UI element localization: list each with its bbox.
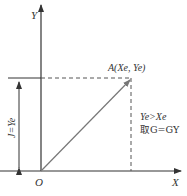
vector-oa bbox=[41, 80, 130, 171]
dimension-label: J=Ye bbox=[6, 117, 17, 138]
point-a-label: A(Xe, Ye) bbox=[107, 62, 146, 74]
condition-line-1: Ye>Xe bbox=[140, 111, 167, 122]
diagram-canvas: Y X O A(Xe, Ye) J=Ye Ye>Xe 取G=GY bbox=[0, 0, 187, 196]
y-axis-label: Y bbox=[31, 9, 39, 21]
x-axis-label: X bbox=[171, 176, 180, 188]
origin-label: O bbox=[35, 176, 43, 188]
condition-line-2: 取G=GY bbox=[140, 124, 180, 135]
